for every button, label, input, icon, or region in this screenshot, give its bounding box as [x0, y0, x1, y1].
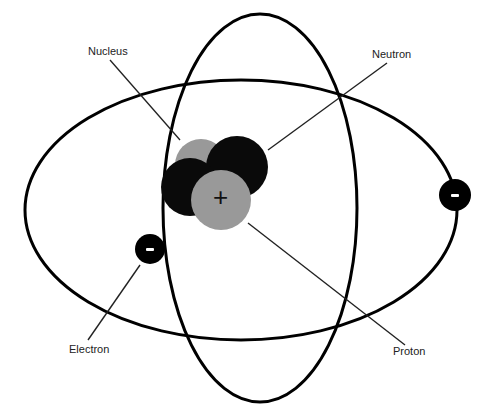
proton-leader-line	[248, 223, 405, 345]
nucleus-leader-line	[110, 60, 180, 140]
nucleus-label: Nucleus	[88, 45, 128, 57]
proton-plus-symbol: +	[213, 184, 228, 210]
electron-leader-line	[88, 265, 140, 340]
atom-diagram: + Nucleus Neutron Electron Proton	[0, 0, 484, 417]
electron-right-minus-icon	[451, 194, 459, 197]
neutron-label: Neutron	[372, 48, 411, 60]
electron-left-minus-icon	[146, 248, 154, 251]
electron-label: Electron	[69, 343, 109, 355]
proton-label: Proton	[393, 345, 425, 357]
